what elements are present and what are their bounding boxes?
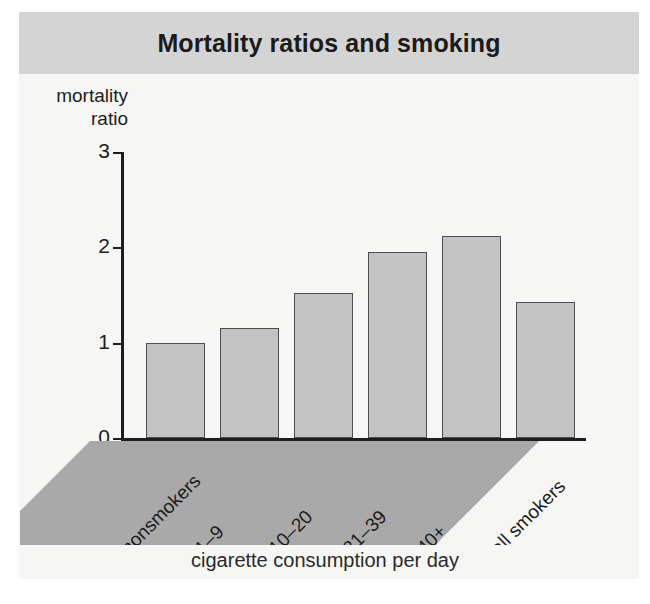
x-axis-title: cigarette consumption per day — [0, 549, 650, 572]
bar-4[interactable] — [442, 236, 501, 438]
bar-5[interactable] — [516, 302, 575, 438]
y-tick-mark-1 — [113, 343, 121, 345]
y-tick-label-1: 1 — [80, 330, 110, 354]
y-axis-title-line-2: ratio — [44, 107, 128, 130]
bar-0[interactable] — [146, 343, 205, 438]
y-tick-mark-2 — [113, 247, 121, 249]
y-tick-mark-0 — [113, 438, 121, 440]
bar-3[interactable] — [368, 252, 427, 438]
category-band-area: nonsmokers 1–9 10–20 21–39 40+ all smoke… — [20, 441, 620, 545]
figure-container: Mortality ratios and smoking mortality r… — [0, 0, 650, 604]
y-tick-label-2: 2 — [80, 234, 110, 258]
y-axis-title-line-1: mortality — [44, 84, 128, 107]
y-axis-line — [121, 152, 124, 441]
plot-area: mortality ratio 3 2 1 0 nonsmoke — [0, 0, 650, 604]
y-tick-mark-3 — [113, 152, 121, 154]
bar-1[interactable] — [220, 328, 279, 438]
bar-2[interactable] — [294, 293, 353, 438]
y-tick-label-3: 3 — [80, 139, 110, 163]
y-axis-title: mortality ratio — [44, 84, 128, 130]
x-tick-label-5: all smokers — [486, 476, 569, 545]
